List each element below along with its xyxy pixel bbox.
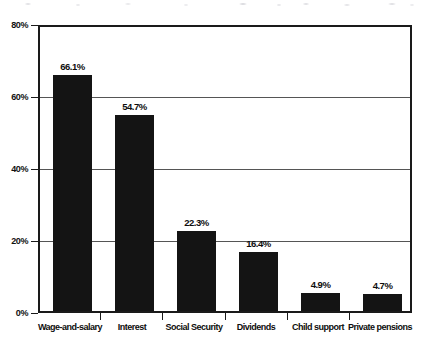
x-axis-tick-4: [287, 313, 288, 320]
x-axis-label-wage-and-salary: Wage-and-salary: [38, 322, 102, 332]
x-axis-tick-1: [100, 313, 101, 320]
x-axis-label-social-security: Social Security: [165, 322, 222, 332]
x-axis-tick-5: [349, 313, 350, 320]
bar-value-child-support: 4.9%: [301, 279, 340, 290]
bar-dividends: [239, 252, 278, 311]
y-axis-label-40: 40%: [11, 164, 28, 174]
bar-value-wage-and-salary: 66.1%: [53, 61, 92, 72]
bar-wage-and-salary: [53, 75, 92, 311]
x-axis-label-dividends: Dividends: [237, 322, 276, 332]
gridline-20: [40, 241, 410, 242]
x-axis-label-child-support: Child support: [292, 322, 344, 332]
gridline-40: [40, 169, 410, 170]
bar-chart-figure: 80% 60% 40% 20% 0% 66.1% 54.7% 22.3% 16.…: [0, 0, 424, 348]
y-axis-tick-20: [31, 241, 38, 242]
y-axis-tick-0: [31, 313, 38, 314]
bar-social-security: [177, 231, 216, 311]
bar-value-social-security: 22.3%: [177, 217, 216, 228]
scan-artifact-strip: [0, 0, 424, 9]
y-axis-label-0: 0%: [16, 308, 28, 318]
x-axis-tick-3: [225, 313, 226, 320]
y-axis-tick-40: [31, 169, 38, 170]
bar-value-dividends: 16.4%: [239, 238, 278, 249]
y-axis-label-60: 60%: [11, 92, 28, 102]
y-axis-label-20: 20%: [11, 236, 28, 246]
x-axis-label-private-pensions: Private pensions: [348, 322, 412, 332]
y-axis-label-80: 80%: [11, 20, 28, 30]
bar-value-interest: 54.7%: [115, 101, 154, 112]
bar-interest: [115, 115, 154, 311]
bar-value-private-pensions: 4.7%: [363, 280, 402, 291]
x-axis-tick-2: [162, 313, 163, 320]
gridline-60: [40, 97, 410, 98]
plot-area: 66.1% 54.7% 22.3% 16.4% 4.9% 4.7%: [38, 25, 412, 313]
bar-private-pensions: [363, 294, 402, 311]
bar-child-support: [301, 293, 340, 311]
y-axis-tick-80: [31, 25, 38, 26]
x-axis-label-interest: Interest: [118, 322, 147, 332]
y-axis-tick-60: [31, 97, 38, 98]
